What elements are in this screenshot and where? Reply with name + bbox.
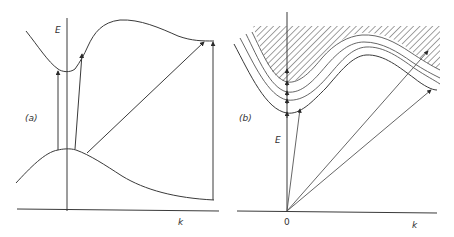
energy-axis-label: E (275, 135, 281, 145)
band-structure-diagram: E k (a) E k 0 (b) (0, 0, 454, 237)
continuum-hatched-region (250, 20, 445, 95)
k-axis-label: k (412, 220, 418, 230)
panel-label: (a) (25, 113, 38, 123)
k-axis-label: k (178, 217, 184, 227)
k-axis (237, 211, 437, 213)
k-axis (17, 209, 219, 211)
transition-arrow-band1-min (287, 109, 300, 211)
panel-a: E k (a) (16, 18, 219, 227)
panel-label: (b) (239, 113, 252, 123)
transition-arrow-continuum (287, 51, 428, 211)
origin-label: 0 (284, 217, 290, 227)
valence-band-curve (16, 149, 214, 200)
energy-axis-label: E (55, 25, 61, 35)
transition-arrow-oblique (87, 42, 204, 153)
transition-arrow-band1-edge (287, 90, 431, 211)
panel-b: E k 0 (b) (234, 12, 445, 230)
